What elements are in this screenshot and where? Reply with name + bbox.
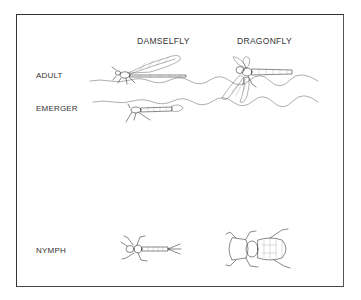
water-surface-upper	[90, 75, 318, 86]
nymph-dragonfly-illustration	[226, 229, 290, 268]
illustration-layer	[0, 0, 361, 300]
emerger-damselfly-illustration	[126, 104, 183, 122]
adult-damselfly-illustration	[112, 56, 186, 85]
water-surface-lower	[93, 96, 318, 107]
nymph-damselfly-illustration	[121, 236, 181, 261]
adult-dragonfly-illustration	[222, 57, 292, 103]
